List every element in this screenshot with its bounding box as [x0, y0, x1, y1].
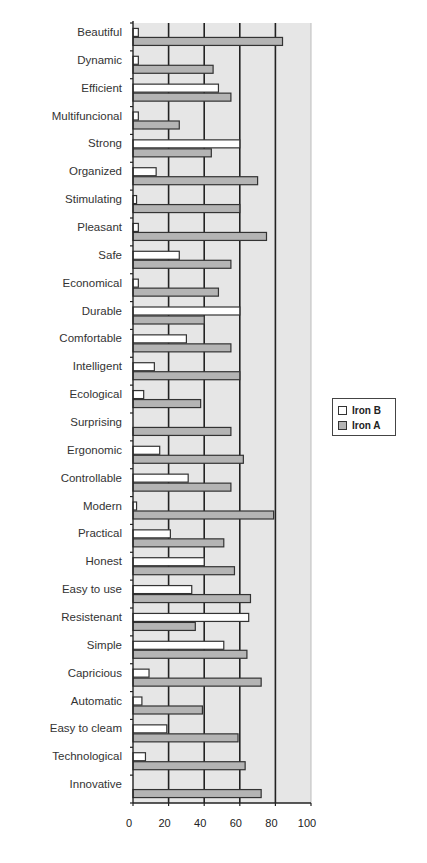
- bar-iron-b-economical: [133, 279, 138, 287]
- legend-item-iron-b: Iron B: [338, 403, 390, 418]
- x-tick-label-100: 100: [298, 817, 316, 829]
- bar-iron-b-durable: [133, 307, 240, 315]
- bar-iron-b-resistenant: [133, 613, 249, 621]
- category-label: Easy to cleam: [50, 722, 122, 734]
- category-label: Innovative: [70, 778, 122, 790]
- bar-iron-a-strong: [133, 149, 211, 157]
- bar-iron-a-beautiful: [133, 37, 283, 45]
- x-axis-tick-labels: 020406080100: [126, 817, 316, 829]
- bar-iron-a-surprising: [133, 427, 231, 435]
- x-tick-label-0: 0: [126, 817, 132, 829]
- bar-iron-a-ecological: [133, 400, 201, 408]
- category-label: Practical: [78, 527, 122, 539]
- bar-iron-a-innovative: [133, 790, 261, 798]
- bar-iron-b-multifuncional: [133, 112, 138, 120]
- bar-iron-b-automatic: [133, 697, 142, 705]
- category-label: Organized: [69, 165, 122, 177]
- category-label: Stimulating: [65, 193, 122, 205]
- bar-iron-a-easy-to-use: [133, 595, 250, 603]
- bar-iron-b-safe: [133, 251, 179, 259]
- category-label: Intelligent: [73, 360, 123, 372]
- bar-iron-a-automatic: [133, 706, 202, 714]
- category-labels: BeautifulDynamicEfficientMultifuncionalS…: [50, 26, 123, 790]
- category-label: Ergonomic: [67, 444, 122, 456]
- category-label: Efficient: [81, 82, 123, 94]
- legend-swatch-iron-b: [338, 406, 347, 415]
- bar-iron-a-multifuncional: [133, 121, 179, 129]
- bar-iron-a-efficient: [133, 93, 231, 101]
- category-label: Ecological: [70, 388, 122, 400]
- category-label: Automatic: [71, 695, 122, 707]
- bar-iron-b-ecological: [133, 391, 144, 399]
- category-label: Dynamic: [77, 54, 122, 66]
- bar-iron-b-controllable: [133, 474, 188, 482]
- bar-iron-a-organized: [133, 177, 258, 185]
- bar-iron-b-comfortable: [133, 335, 186, 343]
- bar-iron-b-organized: [133, 168, 156, 176]
- bar-iron-a-resistenant: [133, 622, 195, 630]
- bar-iron-a-stimulating: [133, 205, 240, 213]
- bar-iron-b-pleasant: [133, 223, 138, 231]
- category-label: Comfortable: [59, 332, 122, 344]
- bar-iron-a-ergonomic: [133, 455, 243, 463]
- bar-iron-a-capricious: [133, 678, 261, 686]
- legend-item-iron-a: Iron A: [338, 418, 390, 433]
- bar-iron-b-efficient: [133, 84, 218, 92]
- x-tick-label-20: 20: [158, 817, 170, 829]
- category-label: Resistenant: [61, 611, 123, 623]
- legend-swatch-iron-a: [338, 421, 347, 430]
- bar-iron-b-easy-to-cleam: [133, 725, 167, 733]
- x-tick-label-80: 80: [265, 817, 277, 829]
- x-tick-label-60: 60: [230, 817, 242, 829]
- category-label: Simple: [87, 639, 122, 651]
- bar-iron-a-practical: [133, 539, 224, 547]
- bar-iron-b-intelligent: [133, 363, 154, 371]
- bar-iron-b-easy-to-use: [133, 586, 192, 594]
- category-label: Easy to use: [62, 583, 122, 595]
- category-label: Controllable: [61, 472, 122, 484]
- bar-iron-a-pleasant: [133, 232, 267, 240]
- legend-label-iron-a: Iron A: [352, 420, 381, 431]
- category-label: Multifuncional: [52, 110, 122, 122]
- bar-iron-a-honest: [133, 567, 234, 575]
- bar-iron-a-economical: [133, 288, 218, 296]
- bar-iron-b-ergonomic: [133, 446, 160, 454]
- bar-iron-a-technological: [133, 762, 245, 770]
- bar-iron-b-dynamic: [133, 56, 138, 64]
- bar-iron-b-simple: [133, 641, 224, 649]
- bar-iron-b-practical: [133, 530, 170, 538]
- bar-iron-b-beautiful: [133, 28, 138, 36]
- bar-iron-a-simple: [133, 650, 247, 658]
- bar-iron-a-safe: [133, 260, 231, 268]
- category-label: Strong: [88, 137, 122, 149]
- bar-iron-a-easy-to-cleam: [133, 734, 238, 742]
- bar-iron-a-comfortable: [133, 344, 231, 352]
- legend-label-iron-b: Iron B: [352, 405, 381, 416]
- bar-iron-b-capricious: [133, 669, 149, 677]
- bar-iron-b-technological: [133, 753, 145, 761]
- category-label: Durable: [82, 305, 122, 317]
- bar-iron-a-controllable: [133, 483, 231, 491]
- category-label: Surprising: [70, 416, 122, 428]
- category-label: Pleasant: [77, 221, 123, 233]
- legend: Iron B Iron A: [332, 398, 396, 436]
- category-label: Honest: [86, 555, 123, 567]
- category-label: Capricious: [68, 667, 123, 679]
- bar-iron-b-honest: [133, 558, 204, 566]
- bar-iron-a-durable: [133, 316, 204, 324]
- category-label: Modern: [83, 500, 122, 512]
- bar-iron-a-modern: [133, 511, 274, 519]
- category-label: Safe: [98, 249, 122, 261]
- category-label: Technological: [52, 750, 122, 762]
- category-label: Economical: [63, 277, 122, 289]
- bar-iron-b-strong: [133, 140, 240, 148]
- bar-iron-a-intelligent: [133, 372, 240, 380]
- x-tick-label-40: 40: [194, 817, 206, 829]
- bar-iron-a-dynamic: [133, 65, 213, 73]
- category-label: Beautiful: [77, 26, 122, 38]
